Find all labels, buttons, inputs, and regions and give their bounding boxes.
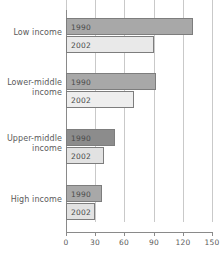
category-label-high-income: High income xyxy=(11,195,62,205)
tick-mark-60 xyxy=(124,232,125,236)
tick-mark-150 xyxy=(212,232,213,236)
tick-mark-90 xyxy=(154,232,155,236)
bar-upper-middle-income-2002: 2002 xyxy=(66,147,104,164)
bar-chart: 1990 2002 1990 2002 1990 2002 1990 2002 … xyxy=(0,0,224,255)
x-tick-label-60: 60 xyxy=(119,238,129,247)
tick-mark-120 xyxy=(183,232,184,236)
bar-lower-middle-income-2002: 2002 xyxy=(66,91,134,108)
bar-lower-middle-income-1990: 1990 xyxy=(66,73,156,90)
x-tick-label-0: 0 xyxy=(64,238,69,247)
bar-label: 1990 xyxy=(71,133,91,142)
plot-area: 1990 2002 1990 2002 1990 2002 1990 2002 xyxy=(66,10,212,232)
tick-mark-30 xyxy=(95,232,96,236)
bar-low-income-1990: 1990 xyxy=(66,18,193,35)
x-tick-label-150: 150 xyxy=(205,238,220,247)
x-tick-label-90: 90 xyxy=(149,238,159,247)
bar-label: 2002 xyxy=(71,151,91,160)
category-label-low-income: Low income xyxy=(13,28,62,38)
bar-label: 1990 xyxy=(71,22,91,31)
bar-label: 1990 xyxy=(71,189,91,198)
x-tick-label-30: 30 xyxy=(90,238,100,247)
x-axis-line xyxy=(66,232,213,233)
bar-label: 2002 xyxy=(71,40,91,49)
bar-label: 2002 xyxy=(71,95,91,104)
bar-label: 2002 xyxy=(71,207,91,216)
bar-high-income-1990: 1990 xyxy=(66,185,102,202)
bar-high-income-2002: 2002 xyxy=(66,203,95,220)
bar-low-income-2002: 2002 xyxy=(66,36,154,53)
x-tick-label-120: 120 xyxy=(176,238,191,247)
category-label-upper-middle-income: Upper-middle income xyxy=(7,134,62,153)
gridline-150 xyxy=(212,0,213,222)
bar-label: 1990 xyxy=(71,77,91,86)
category-label-lower-middle-income: Lower-middle income xyxy=(7,78,62,97)
bar-upper-middle-income-1990: 1990 xyxy=(66,129,115,146)
tick-mark-0 xyxy=(66,232,67,236)
